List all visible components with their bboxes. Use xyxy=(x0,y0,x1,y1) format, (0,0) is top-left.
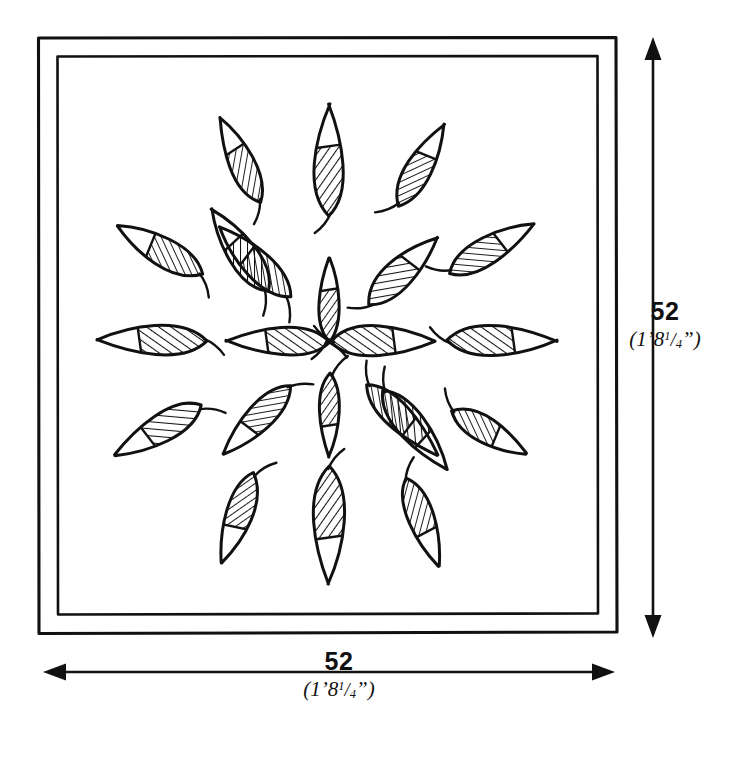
leaf-motif xyxy=(305,104,354,233)
dim-bottom-feet: 1 xyxy=(310,677,321,701)
leaf-stem xyxy=(204,339,224,355)
leaf-motif xyxy=(97,316,224,365)
drawing-canvas: 52 (1’81/4”) 52 (1’81/4”) xyxy=(0,0,738,758)
leaf-hatching xyxy=(331,317,396,366)
leaf-hatching xyxy=(352,244,430,322)
leaf-motif xyxy=(370,114,463,232)
leaf-motif xyxy=(424,205,546,302)
leaf-motif xyxy=(208,359,318,469)
leaf-motif xyxy=(201,109,285,227)
dim-bottom-frac-den: 4 xyxy=(350,687,356,701)
leaf-motif xyxy=(192,196,298,319)
dimension-bottom-arrowhead-right xyxy=(592,664,615,681)
leaf-stem xyxy=(254,457,276,481)
leaf-stem xyxy=(288,373,313,398)
dimension-label-right: 52 (1’81/4”) xyxy=(613,298,717,351)
dim-right-feet: 1 xyxy=(636,327,647,351)
leaf-hatching xyxy=(447,317,518,366)
leaf-hatching xyxy=(305,142,354,216)
dimension-bottom-imperial: (1’81/4”) xyxy=(262,677,416,701)
panel-drawing-svg xyxy=(0,0,738,758)
dimension-right-imperial: (1’81/4”) xyxy=(613,327,717,351)
leaf-hatching xyxy=(312,373,345,427)
dimension-label-bottom: 52 (1’81/4”) xyxy=(262,648,416,701)
leaf-motif xyxy=(312,356,347,457)
leaf-stem xyxy=(246,199,269,224)
leaf-stem xyxy=(375,195,399,220)
leaf-hatching xyxy=(438,222,516,293)
leaf-hatching xyxy=(136,316,207,365)
leaf-stem xyxy=(275,297,300,322)
leaf-hatching xyxy=(133,385,213,458)
dimension-bottom-value: 52 xyxy=(262,648,416,674)
leaf-motif xyxy=(103,376,228,475)
dimension-right-arrowhead-bottom xyxy=(645,615,662,638)
leaf-stem xyxy=(200,399,225,423)
leaf-stem xyxy=(355,361,380,386)
leaf-motif xyxy=(106,206,228,303)
leaf-stem xyxy=(399,457,421,481)
leaf-motif xyxy=(303,449,356,584)
leaf-motif xyxy=(430,317,557,366)
leaf-motif xyxy=(340,220,453,333)
leaf-hatching xyxy=(303,466,356,541)
leaf-stem xyxy=(332,356,348,376)
leaf-hatching xyxy=(232,371,306,445)
dim-right-inches: 8 xyxy=(654,327,665,351)
dimension-right-arrowhead-top xyxy=(645,37,662,60)
leaf-stem xyxy=(191,274,216,298)
dim-right-frac-den: 4 xyxy=(676,337,682,351)
leaf-stem xyxy=(426,256,451,280)
leaf-motif xyxy=(201,450,280,571)
leaf-stem xyxy=(315,213,331,233)
dim-bottom-inches: 8 xyxy=(328,677,339,701)
leaf-motif xyxy=(381,454,459,573)
dimension-bottom-arrowhead-left xyxy=(43,664,66,681)
leaf-motif-group xyxy=(97,104,557,584)
dimension-right-value: 52 xyxy=(613,298,717,324)
